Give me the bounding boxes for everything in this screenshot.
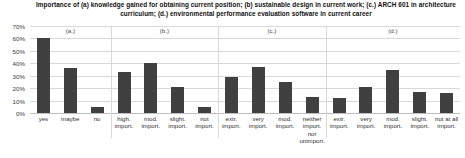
bar-slot xyxy=(353,26,380,113)
bar xyxy=(359,87,372,113)
bar-slot xyxy=(164,26,191,113)
x-axis-category-label: mod. import. xyxy=(137,115,164,130)
gridline xyxy=(30,113,460,114)
bar xyxy=(386,70,399,114)
x-axis-category-label: neither import. nor unimport. xyxy=(298,115,325,145)
bar xyxy=(37,38,50,113)
group-annotation-3: (c.) xyxy=(218,27,326,39)
y-axis-tick-label: 40% xyxy=(13,60,25,67)
bar xyxy=(144,63,157,113)
bar xyxy=(225,77,238,113)
plot-area xyxy=(30,26,460,113)
bar xyxy=(333,98,346,113)
bar-slot xyxy=(379,26,406,113)
bar-slot xyxy=(191,26,218,113)
x-axis-category-label: very import. xyxy=(245,115,272,130)
bar-slot xyxy=(433,26,460,113)
bar-slot xyxy=(272,26,299,113)
group-annotation-4: (d.) xyxy=(326,27,460,39)
bar-slot xyxy=(406,26,433,113)
y-axis-tick-label: 20% xyxy=(13,85,25,92)
bar xyxy=(440,93,453,113)
x-axis-category-label: slight. import. xyxy=(164,115,191,130)
group-annotations: (a.)(b.)(c.)(d.) xyxy=(30,27,460,39)
x-axis-category-label: high. import. xyxy=(111,115,138,130)
x-axis-labels: yesmaybenohigh. import.mod. import.sligh… xyxy=(30,115,460,157)
bar-slot xyxy=(218,26,245,113)
bar-slot xyxy=(57,26,84,113)
bar xyxy=(91,107,104,113)
group-annotation-1: (a.) xyxy=(30,27,111,39)
x-axis-category-label: extr. import. xyxy=(326,115,353,130)
y-axis-tick-label: 60% xyxy=(13,35,25,42)
y-axis-tick-label: 30% xyxy=(13,72,25,79)
y-axis-tick-label: 50% xyxy=(13,47,25,54)
bar xyxy=(413,92,426,113)
x-axis-category-label: maybe xyxy=(57,115,84,122)
y-axis: 70%60%50%40%30%20%10%0% xyxy=(0,26,28,113)
x-axis-category-label: not import. xyxy=(191,115,218,130)
bar-chart: Importance of (a) knowledge gained for o… xyxy=(0,0,465,158)
y-axis-tick-label: 10% xyxy=(13,97,25,104)
bar-slot xyxy=(299,26,326,113)
x-axis-category-label: yes xyxy=(30,115,57,122)
chart-title: Importance of (a) knowledge gained for o… xyxy=(34,1,458,18)
x-axis-category-label: not at all import. xyxy=(433,115,460,130)
bars-layer xyxy=(30,26,460,113)
y-axis-tick-label: 70% xyxy=(13,23,25,30)
bar xyxy=(252,67,265,113)
bar-slot xyxy=(84,26,111,113)
bar xyxy=(279,82,292,113)
y-axis-tick-label: 0% xyxy=(16,110,25,117)
bar-slot xyxy=(245,26,272,113)
bar-slot xyxy=(30,26,57,113)
bar xyxy=(198,107,211,113)
x-axis-category-label: mod. import. xyxy=(272,115,299,130)
x-axis-category-label: mod. import. xyxy=(380,115,407,130)
x-axis-category-label: no xyxy=(84,115,111,122)
bar xyxy=(306,97,319,113)
bar xyxy=(64,68,77,113)
bar-slot xyxy=(326,26,353,113)
bar-slot xyxy=(111,26,138,113)
x-axis-category-label: very import. xyxy=(353,115,380,130)
x-axis-category-label: extr. import. xyxy=(218,115,245,130)
group-annotation-2: (b.) xyxy=(111,27,219,39)
bar xyxy=(118,72,131,113)
x-axis-category-label: slight. import. xyxy=(406,115,433,130)
bar-slot xyxy=(138,26,165,113)
bar xyxy=(171,87,184,113)
